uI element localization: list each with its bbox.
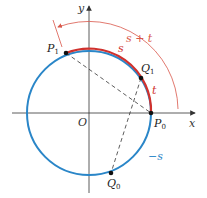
arc-label-s-plus-t: s + t [126,32,153,45]
chord-p1-p0 [66,53,151,113]
point-p1 [64,51,69,56]
point-q1 [139,76,144,81]
arc-s-plus-t [66,49,151,113]
point-p0 [149,111,154,116]
label-q0: Q0 [107,177,121,191]
unit-circle-diagram: y x O P1 Q1 P0 Q0 s t s + t −s [0,0,207,198]
outer-arrow-s-plus-t [58,21,178,109]
x-axis-label: x [189,117,196,130]
arc-label-neg-s: −s [148,150,163,163]
arc-label-t: t [152,84,157,97]
label-p0: P0 [153,117,166,131]
label-q1: Q1 [141,62,155,76]
y-axis-label: y [77,2,85,15]
point-q0 [109,171,114,176]
chord-q1-q0 [111,78,141,173]
arc-label-s: s [118,42,124,55]
label-p1: P1 [46,42,59,56]
origin-label: O [78,116,87,129]
